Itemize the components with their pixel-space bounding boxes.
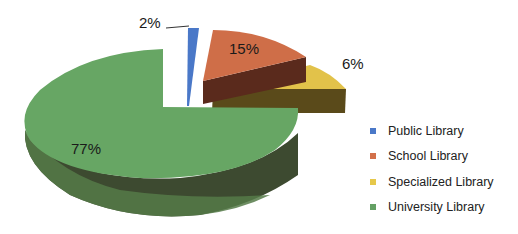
leader-line bbox=[166, 26, 189, 28]
label-school-library: 15% bbox=[229, 40, 259, 57]
label-public-library: 2% bbox=[139, 14, 161, 31]
legend-item-public-library: Public Library bbox=[370, 118, 494, 144]
legend-swatch-icon bbox=[370, 128, 376, 134]
legend: Public Library School Library Specialize… bbox=[370, 118, 494, 220]
label-specialized-library: 6% bbox=[342, 55, 364, 72]
slice-public-library bbox=[187, 28, 199, 106]
legend-swatch-icon bbox=[370, 153, 376, 159]
legend-item-school-library: School Library bbox=[370, 144, 494, 170]
legend-swatch-icon bbox=[370, 204, 376, 210]
legend-item-specialized-library: Specialized Library bbox=[370, 169, 494, 195]
legend-item-university-library: University Library bbox=[370, 195, 494, 221]
label-university-library: 77% bbox=[71, 140, 101, 157]
legend-swatch-icon bbox=[370, 179, 376, 185]
